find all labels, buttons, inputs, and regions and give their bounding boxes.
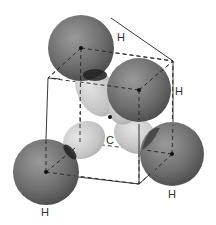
label-h3: H <box>41 206 49 218</box>
label-carbon: C <box>106 134 114 146</box>
overlap-shadow-1 <box>83 69 107 81</box>
nucleus-h1 <box>79 46 83 50</box>
label-h2: H <box>175 85 183 97</box>
nucleus-h3 <box>44 170 48 174</box>
label-h1: H <box>117 31 125 43</box>
nucleus-carbon <box>108 115 112 119</box>
nucleus-h2 <box>137 88 141 92</box>
methane-diagram: H H H H C <box>0 0 216 225</box>
label-h4: H <box>168 188 176 200</box>
nucleus-h4 <box>170 152 174 156</box>
